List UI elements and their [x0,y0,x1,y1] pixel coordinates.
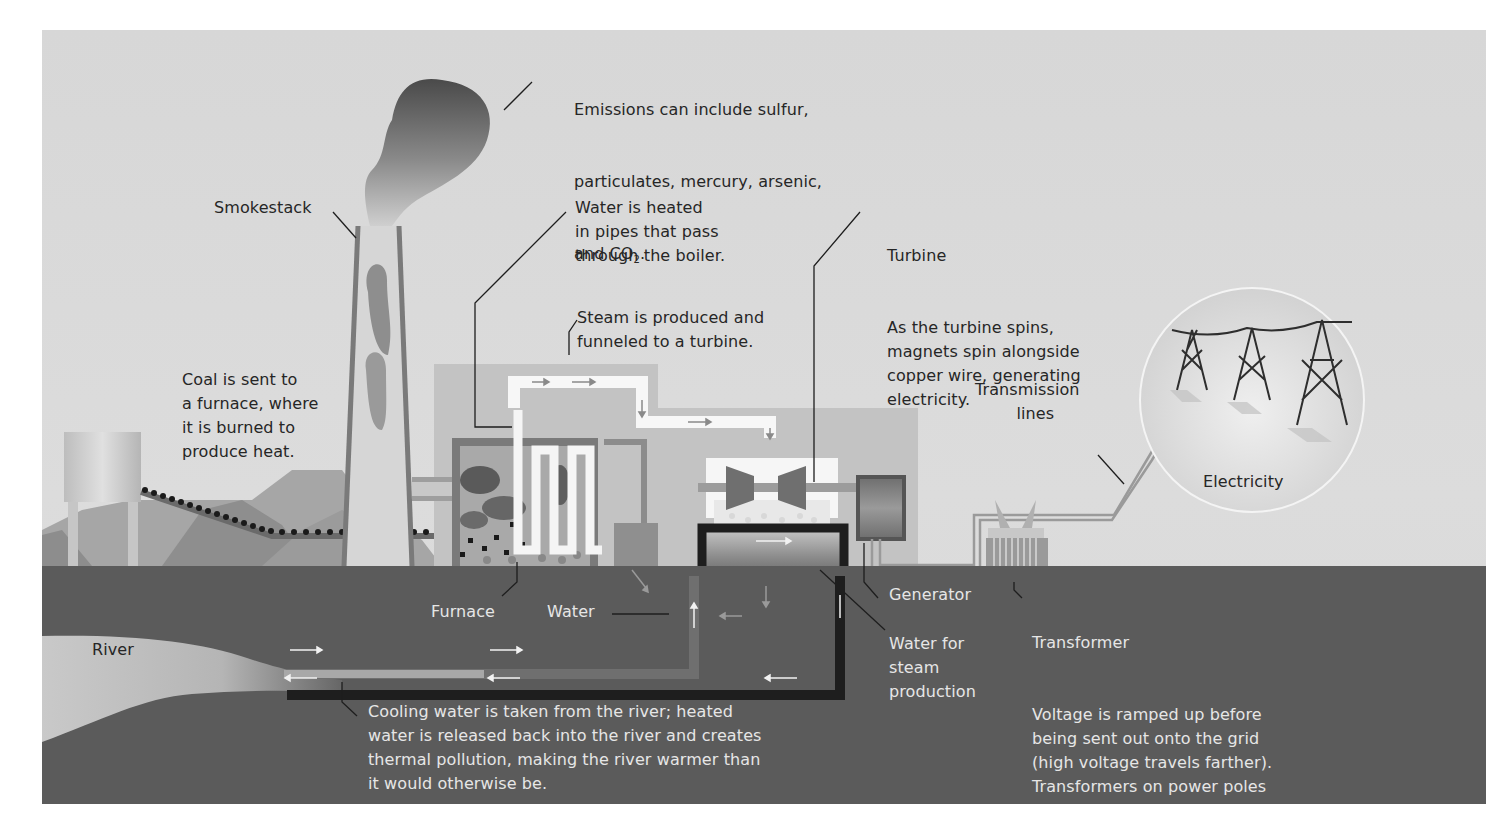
water-heated-label: Water is heated in pipes that pass throu… [575,196,725,268]
cooling-water-label: Cooling water is taken from the river; h… [368,700,762,796]
emissions-label: Emissions can include sulfur, particulat… [574,50,822,320]
emissions-line-2: particulates, mercury, arsenic, [574,170,822,194]
electricity-label: Electricity [1203,470,1284,494]
flue-duct-inner [412,482,452,496]
generator [858,477,904,539]
steam-label: Steam is produced and funneled to a turb… [577,306,764,354]
transformer-description: Voltage is ramped up before being sent o… [1032,703,1272,804]
transformer-title: Transformer [1032,631,1272,655]
turbine-title: Turbine [887,244,1081,268]
furnace-label: Furnace [431,600,495,624]
water-for-steam-label: Water for steam production [889,632,976,704]
power-plant-diagram: Emissions can include sulfur, particulat… [42,30,1486,804]
river-label: River [92,638,134,662]
transmission-lines-label: Transmission lines [975,378,1080,426]
coal-label: Coal is sent to a furnace, where it is b… [182,368,318,464]
water-label: Water [547,600,595,624]
transformer-label: Transformer Voltage is ramped up before … [1032,583,1272,804]
smokestack-label: Smokestack [214,196,312,220]
generator-label: Generator [889,583,971,607]
turbine [698,458,858,526]
emissions-line-1: Emissions can include sulfur, [574,98,822,122]
pump [614,523,658,566]
